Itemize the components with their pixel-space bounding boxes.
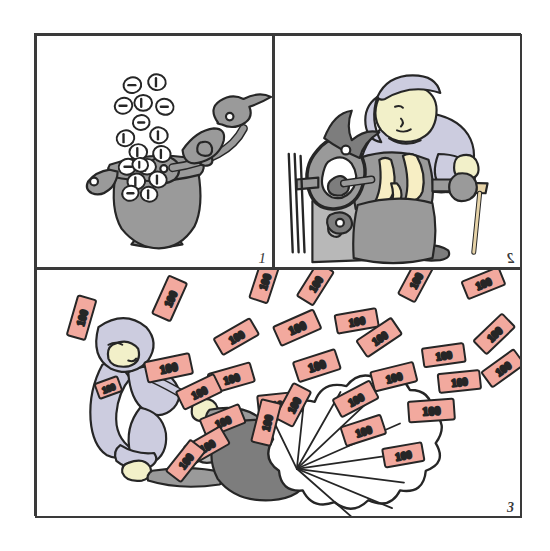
comic-panel-2: 2 (273, 34, 522, 269)
banknote: 100 (438, 370, 481, 393)
comic-page: 1 (0, 0, 550, 551)
banknote: 100 (398, 270, 433, 302)
banknote: 100 (481, 349, 520, 387)
worker3-face (108, 342, 139, 367)
shaft-wheel (449, 173, 477, 201)
banknote: 100 (249, 270, 279, 303)
banknote: 100 (67, 295, 97, 340)
comic-outer-frame: 1 (34, 33, 521, 516)
crank-lower-bolt (336, 219, 344, 227)
banknote: 100 (370, 362, 417, 392)
banknote: 100 (297, 270, 334, 305)
banknote: 100 (473, 314, 515, 355)
banknote: 100 (422, 343, 466, 367)
crank-head (213, 94, 271, 127)
furnace-drum (353, 199, 435, 263)
svg-text:100: 100 (451, 375, 469, 389)
rail-line-a (289, 154, 293, 252)
coin (132, 114, 151, 131)
coin (147, 73, 167, 92)
panel-2-number: 2 (507, 252, 514, 266)
comic-panel-1: 1 (35, 34, 274, 269)
rail-line-c (301, 156, 305, 252)
coin (113, 95, 135, 116)
svg-text:100: 100 (422, 403, 441, 418)
comic-panel-3: 100 100 100 100 100 100 100 100 100 100 … (35, 268, 522, 518)
spout-hole (90, 178, 98, 186)
coin (132, 157, 149, 172)
crank-hook-bolt (341, 146, 350, 155)
paddle-pivot (197, 142, 212, 156)
banknote: 100 (214, 318, 259, 355)
banknote: 100 (273, 309, 321, 345)
coin (149, 126, 170, 145)
banknote: 100 (144, 353, 193, 383)
panel-1-artwork (37, 36, 272, 267)
coin (134, 95, 152, 111)
rail-line-b (295, 154, 299, 252)
coin (154, 97, 176, 117)
rail-left (297, 178, 319, 190)
banknote: 100 (408, 399, 455, 423)
crank-eye (226, 113, 233, 120)
panel-2-artwork (275, 36, 520, 267)
panel-3-number: 3 (507, 501, 514, 515)
svg-text:100: 100 (435, 348, 453, 362)
banknote: 100 (152, 276, 187, 322)
joint-bolt (160, 165, 167, 172)
coin (122, 76, 143, 95)
banknote: 100 (293, 349, 341, 382)
panel-3-artwork: 100 100 100 100 100 100 100 100 100 100 … (37, 270, 520, 516)
panel-1-number: 1 (259, 251, 267, 266)
banknote: 100 (461, 270, 505, 299)
